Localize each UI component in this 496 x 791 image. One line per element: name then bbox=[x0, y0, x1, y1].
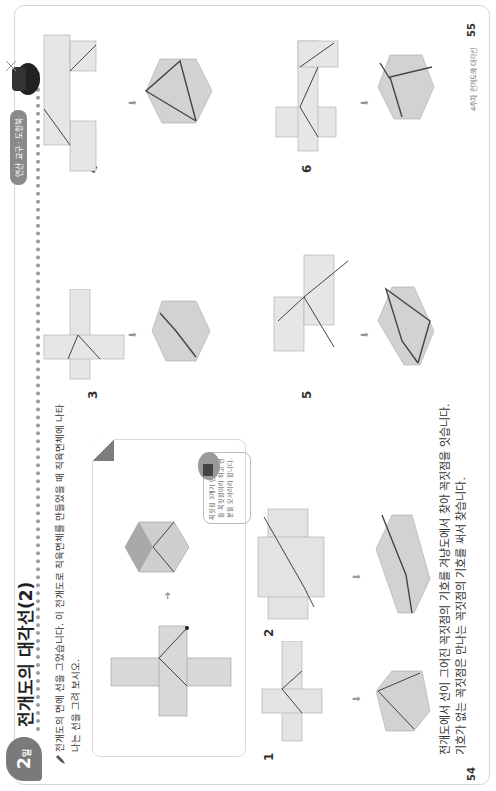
example-net bbox=[101, 590, 241, 740]
problem-1-net[interactable] bbox=[258, 641, 338, 751]
page-right-label: 4주차 전개도와 대각선 bbox=[468, 48, 478, 111]
problem-5-net[interactable] bbox=[268, 251, 358, 361]
section-pill: 연산 교구 · 도형북 bbox=[10, 110, 27, 185]
problem-2-net[interactable] bbox=[254, 507, 334, 627]
arrow-icon: ⬇ bbox=[360, 329, 370, 339]
instruction-line-1: 전개도의 면에 선을 그었습니다. 이 전개도로 직육면체를 만들었을 때 직육… bbox=[54, 404, 65, 752]
day-badge: 2일 bbox=[6, 737, 42, 781]
problem-2-cube[interactable] bbox=[372, 509, 432, 619]
problem-4-net[interactable] bbox=[30, 31, 120, 181]
problem-5-cube[interactable] bbox=[374, 281, 436, 371]
problem-number-2: 2 bbox=[262, 629, 276, 637]
problem-number-6: 6 bbox=[300, 165, 314, 173]
problem-number-1: 1 bbox=[262, 753, 276, 761]
page-number-left: 54 bbox=[466, 767, 477, 781]
instruction: 전개도의 면에 선을 그었습니다. 이 전개도로 직육면체를 만들었을 때 직육… bbox=[52, 345, 84, 765]
problem-6-net[interactable] bbox=[270, 37, 360, 157]
page-fold-corner bbox=[92, 439, 114, 461]
pencil-icon bbox=[56, 755, 66, 765]
instruction-line-2: 나는 선을 그려 보시오. bbox=[70, 659, 81, 765]
arrow-icon: ⬇ bbox=[128, 97, 138, 107]
footer-line-2: 기호가 없는 꼭짓점은 만나는 꼭짓점의 기호를 써서 찾습니다. bbox=[454, 335, 470, 755]
arrow-icon: ⬇ bbox=[128, 329, 138, 339]
problem-4-cube[interactable] bbox=[140, 51, 216, 131]
arrow-icon: ➜ bbox=[163, 590, 173, 600]
example-cube bbox=[119, 512, 199, 582]
page-number-right: 55 bbox=[466, 23, 477, 37]
problem-number-5: 5 bbox=[300, 391, 314, 399]
day-suffix: 일 bbox=[22, 749, 32, 757]
problem-3-cube[interactable] bbox=[146, 291, 216, 371]
footer-line-1: 전개도에서 선이 그어진 꼭짓점의 기호를 겨냥도에서 찾아 꼭짓점을 잇습니다… bbox=[438, 335, 454, 755]
arrow-icon: ⬇ bbox=[352, 693, 362, 703]
problem-1-cube[interactable] bbox=[372, 661, 432, 741]
page-title: 전개도의 대각선(2) bbox=[12, 582, 37, 727]
footer-hint: 전개도에서 선이 그어진 꼭짓점의 기호를 겨냥도에서 찾아 꼭짓점을 잇습니다… bbox=[438, 335, 470, 755]
worksheet-page: 2일 전개도의 대각선(2) 연산 교구 · 도형북 전개도의 면에 선을 그었… bbox=[0, 0, 496, 791]
arrow-icon: ⬇ bbox=[360, 97, 370, 107]
problem-3-net[interactable] bbox=[40, 289, 130, 399]
pig-mascot-icon bbox=[193, 448, 223, 484]
problem-6-cube[interactable] bbox=[372, 47, 438, 127]
example-box: ➜ 꼭짓점 3개가 만나는 점을 꼭짓점이라 하고 선분을 모서리라 합니다. bbox=[92, 439, 246, 757]
day-number: 2 bbox=[14, 757, 34, 769]
arrow-icon: ⬇ bbox=[352, 571, 362, 581]
